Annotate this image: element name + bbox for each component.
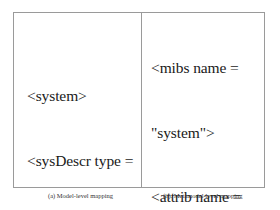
panel-model-level: <system> <sysDescr type = "DisplayString… xyxy=(27,42,133,210)
code-line: "system"> xyxy=(151,122,257,144)
panel-metamodel-level: <mibs name = "system"> <attrib name = "s… xyxy=(151,14,257,210)
code-line: <mibs name = xyxy=(151,57,257,79)
code-line: <sysDescr type = xyxy=(27,150,133,172)
code-line: <system> xyxy=(27,85,133,107)
caption-model-level: (a) Model-level mapping xyxy=(48,192,113,199)
caption-metamodel-level: (b). Metamodel-level mapping xyxy=(163,192,243,199)
panel-divider xyxy=(141,12,142,188)
